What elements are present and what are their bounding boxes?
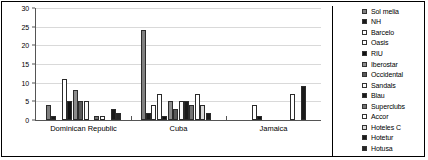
bar [146,113,151,120]
legend-item-label: Hotetur [371,134,393,141]
bar [301,86,306,120]
bar [84,101,89,120]
legend-swatch-icon [362,62,367,67]
y-axis-tick-label: 25 [22,23,29,30]
bar [257,116,262,120]
legend-item-label: Barcelo [371,29,394,36]
legend-item[interactable]: RIU [333,48,426,59]
legend-swatch-icon [362,146,367,151]
bar [67,101,72,120]
legend-item[interactable]: NH [333,17,426,28]
legend-swatch-icon [362,51,367,56]
x-axis-line [35,120,321,121]
legend-item-label: NH [371,18,381,25]
legend-item-label: Hotusa [371,145,393,152]
bar [173,109,178,120]
legend-item-label: Sandals [371,82,396,89]
legend-swatch-icon [362,93,367,98]
bar [62,79,67,120]
bar [51,116,56,120]
legend-item-label: Oasis [371,39,388,46]
legend-swatch-icon [362,83,367,88]
legend-swatch-icon [362,114,367,119]
y-axis-tick-label: 10 [22,79,29,86]
bar [179,101,184,120]
bar [157,94,162,120]
bar [111,109,116,120]
legend-item[interactable]: Accor [333,111,426,122]
legend-item[interactable]: Blau [333,90,426,101]
y-axis-tick-label: 15 [22,61,29,68]
bar [168,101,173,120]
bar-group [236,8,312,120]
bar [162,116,167,120]
legend-swatch-icon [362,72,367,77]
bar-series-container [36,8,321,120]
legend-swatch-icon [362,104,367,109]
y-axis: 051015202530 [6,8,32,120]
bar [78,101,83,120]
legend-swatch-icon [362,40,367,45]
legend-item-label: RIU [371,50,383,57]
y-axis-tick-label: 5 [25,98,29,105]
legend-item[interactable]: Hoteles C [333,122,426,133]
bar [116,113,121,120]
bar [184,101,189,120]
legend-item-label: Accor [371,113,388,120]
legend-item[interactable]: Oasis [333,38,426,49]
x-axis-category-label: Jamaica [260,124,288,133]
legend-item[interactable]: Hotetur [333,133,426,144]
legend-item[interactable]: Occidental [333,69,426,80]
legend-swatch-icon [362,125,367,130]
legend-item-label: Iberostar [371,61,398,68]
bar-group [46,8,122,120]
x-axis-group-separator [131,116,132,121]
legend-item[interactable]: Sol melia [333,6,426,17]
legend-item[interactable]: Hotusa [333,143,426,154]
plot-area: 051015202530 Dominican RepublicCubaJamai… [6,8,324,154]
x-axis-category-label: Cuba [170,124,188,133]
x-axis-category-label: Dominican Republic [50,124,117,133]
bar [195,94,200,120]
bar [100,116,105,120]
x-axis-group-separator [226,116,227,121]
bar [200,105,205,120]
bar [73,90,78,120]
legend-item-label: Sol melia [371,8,399,15]
bar [151,105,156,120]
y-axis-tick-label: 20 [22,42,29,49]
y-axis-tick-label: 30 [22,5,29,12]
legend-item[interactable]: Sandals [333,80,426,91]
legend-item[interactable]: Superclubs [333,101,426,112]
legend-swatch-icon [362,135,367,140]
legend-swatch-icon [362,30,367,35]
chart-frame: 051015202530 Dominican RepublicCubaJamai… [1,1,425,157]
legend-item[interactable]: Barcelo [333,27,426,38]
legend-swatch-icon [362,19,367,24]
bar [141,30,146,120]
bar [94,116,99,120]
legend-item-label: Blau [371,92,385,99]
bar [189,105,194,120]
bar [46,105,51,120]
legend-item[interactable]: Iberostar [333,59,426,70]
bar [290,94,295,120]
bar-group [141,8,217,120]
legend-item-label: Hoteles C [371,124,401,131]
y-axis-tick-label: 0 [25,117,29,124]
legend-swatch-icon [362,9,367,14]
legend: Sol meliaNHBarceloOasisRIUIberostarOccid… [332,6,426,156]
legend-item-label: Superclubs [371,103,405,110]
legend-item-label: Occidental [371,71,403,78]
bar [206,113,211,120]
bar [252,105,257,120]
